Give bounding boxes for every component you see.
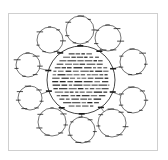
handwritten-word (71, 57, 75, 58)
junction-label (96, 50, 102, 52)
node-label (78, 15, 85, 16)
node-label (48, 26, 51, 27)
handwritten-word (85, 60, 93, 61)
node-label (96, 125, 100, 126)
handwritten-word (94, 99, 102, 100)
handwritten-word (80, 99, 87, 100)
node-label (37, 31, 44, 32)
handwritten-word (92, 85, 98, 86)
junction-label (46, 90, 52, 92)
junction-label (59, 107, 65, 109)
handwritten-word (81, 74, 85, 75)
handwritten-word (105, 74, 108, 75)
node-label (45, 135, 50, 136)
junction-label (57, 52, 63, 54)
node-label (60, 40, 66, 41)
handwritten-word (82, 78, 87, 79)
handwritten-word (103, 92, 107, 93)
handwritten-word (62, 67, 66, 68)
node-label (64, 124, 68, 125)
handwritten-word (97, 67, 101, 68)
node-label (25, 86, 31, 87)
junction-label (45, 70, 51, 72)
handwritten-word (94, 81, 100, 82)
node-label (140, 90, 145, 91)
handwritten-word (87, 74, 91, 75)
handwritten-word (59, 99, 64, 100)
handwritten-word (86, 92, 92, 93)
handwritten-word (87, 102, 92, 103)
handwritten-word (88, 99, 92, 100)
handwritten-word (63, 102, 71, 103)
handwritten-word (74, 67, 83, 68)
handwritten-word (69, 88, 77, 89)
handwritten-word (57, 95, 61, 96)
node-label (40, 101, 44, 102)
handwritten-word (99, 85, 108, 86)
handwritten-word (95, 71, 102, 72)
handwritten-word (67, 67, 72, 68)
node-label (96, 30, 99, 31)
handwritten-word (58, 71, 64, 72)
handwritten-word (78, 88, 84, 89)
handwritten-word (73, 71, 79, 72)
node-label (119, 105, 123, 106)
handwritten-word (77, 78, 81, 79)
satellite-circle-left-upper (14, 52, 52, 77)
node-label (22, 76, 25, 77)
handwritten-word (63, 57, 70, 58)
handwritten-word (66, 71, 72, 72)
handwritten-word (76, 95, 80, 96)
node-label (139, 110, 143, 111)
handwritten-word (102, 81, 108, 82)
node-label (108, 109, 115, 110)
handwritten-word (59, 88, 67, 89)
node-label (68, 135, 73, 136)
handwritten-word (62, 78, 69, 79)
node-label (144, 100, 148, 101)
node-label (86, 41, 89, 42)
handwritten-word (76, 105, 81, 106)
handwritten-word (65, 64, 72, 65)
handwritten-word (80, 92, 85, 93)
handwritten-word (77, 57, 83, 58)
node-label (54, 51, 59, 52)
handwritten-word (53, 85, 61, 86)
handwritten-word (82, 95, 90, 96)
handwritten-word (61, 95, 68, 96)
node-label (33, 56, 40, 57)
node-label (130, 48, 135, 49)
handwritten-word (57, 64, 64, 65)
handwritten-word (95, 57, 99, 58)
handwritten-word (87, 64, 96, 65)
handwritten-word (69, 85, 72, 86)
node-label (37, 66, 43, 67)
satellite-circle-bottom-right (96, 107, 128, 137)
handwritten-word (82, 102, 87, 103)
node-label (94, 43, 98, 44)
node-label (36, 127, 42, 128)
handwritten-word (95, 78, 103, 79)
node-label (42, 51, 45, 52)
node-label (65, 22, 71, 23)
handwritten-word (99, 95, 105, 96)
node-label (114, 28, 121, 29)
handwritten-word (94, 102, 99, 103)
handwritten-word (53, 71, 56, 72)
handwritten-word (59, 60, 66, 61)
handwritten-word (84, 57, 87, 58)
handwritten-word (69, 105, 75, 106)
handwritten-word (72, 102, 80, 103)
handwritten-word (74, 74, 80, 75)
satellite-circle-left-lower (16, 86, 52, 110)
handwritten-word (97, 64, 103, 65)
node-label (88, 19, 91, 20)
handwritten-word (108, 85, 109, 86)
node-label (117, 134, 123, 135)
node-label (105, 24, 110, 25)
handwritten-word (90, 88, 95, 89)
node-label (98, 114, 103, 115)
handwritten-word (73, 64, 79, 65)
handwritten-word (70, 78, 75, 79)
junction-label (79, 113, 85, 115)
